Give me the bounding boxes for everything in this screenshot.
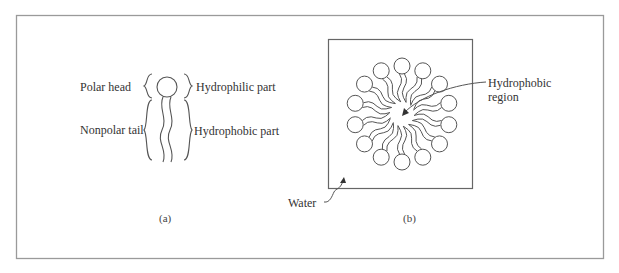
micelle	[347, 58, 457, 170]
hydrophobic-region-label-line1: Hydrophobic	[488, 76, 551, 90]
water-label: Water	[288, 196, 316, 210]
micelle-tail	[406, 77, 417, 103]
hydrophilic-part-label: Hydrophilic part	[196, 80, 276, 94]
micelle-tail	[413, 103, 440, 111]
micelle-head	[357, 76, 373, 92]
caption-b: (b)	[403, 212, 416, 224]
nonpolar-tail-label: Nonpolar tail	[80, 123, 144, 137]
brace-right-head	[184, 74, 192, 98]
micelle-head	[394, 58, 410, 74]
micelle-tail	[382, 79, 395, 104]
amphiphile-molecule	[144, 74, 192, 162]
brace-left-head	[144, 74, 152, 98]
micelle-tail	[364, 118, 391, 126]
micelle-head	[347, 95, 363, 111]
micelle-head	[373, 63, 389, 79]
micelle-tail	[408, 124, 421, 149]
caption-a: (a)	[159, 212, 171, 224]
micelle-tail	[364, 102, 392, 109]
hydrophobic-region-label-line2: region	[488, 90, 519, 104]
micelle-head	[441, 117, 457, 133]
polar-head-label: Polar head	[80, 80, 131, 94]
micelle-tail	[414, 114, 442, 121]
outer-frame	[17, 16, 604, 259]
micelle-tail	[403, 126, 407, 154]
micelle-tail	[387, 125, 398, 151]
micelle-tail	[372, 122, 393, 140]
micelle-head	[432, 136, 448, 152]
water-arrow	[324, 181, 343, 202]
brace-left-tail	[144, 100, 152, 160]
micelle-head	[394, 154, 410, 170]
micelle-head	[415, 63, 431, 79]
micelle-head	[357, 136, 373, 152]
micelle-head	[373, 149, 389, 165]
polar-head-circle	[157, 77, 177, 97]
micelle-head	[347, 117, 363, 133]
micelle-head	[441, 95, 457, 111]
micelle-tail	[397, 74, 401, 102]
tail-line-2	[168, 97, 172, 162]
micelle-head	[415, 149, 431, 165]
water-arrowhead	[340, 177, 346, 183]
micelle-tail	[413, 119, 441, 126]
micelle-tail	[362, 107, 390, 114]
hydrophobic-part-label: Hydrophobic part	[194, 124, 279, 138]
brace-right-tail	[184, 100, 192, 160]
tail-line-1	[160, 97, 164, 162]
